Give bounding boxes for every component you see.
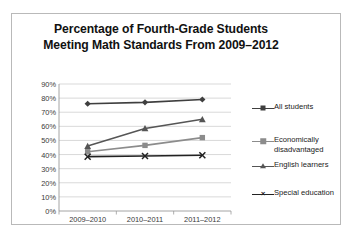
- series-line-2: [88, 119, 203, 146]
- y-axis-tick-label: 90%: [28, 80, 56, 89]
- legend-marker-triangle-icon: [252, 161, 274, 171]
- legend-label-1: Economically disadvantaged: [274, 135, 323, 154]
- data-point-diamond: [142, 99, 148, 105]
- legend-item-2[interactable]: English learners: [252, 160, 328, 171]
- legend-label-3: Special education: [274, 188, 334, 198]
- legend-item-3[interactable]: ×Special education: [252, 188, 334, 199]
- x-axis-tick-label: 2011–2012: [162, 215, 242, 224]
- legend-marker-cross-icon: ×: [252, 189, 274, 199]
- y-axis: 90%80%70%60%50%40%30%20%10%0%: [26, 84, 56, 211]
- x-axis: 2009–20102010–20112011–2012: [59, 215, 231, 229]
- data-point-square: [142, 143, 147, 148]
- chart-title-line-2: Meeting Math Standards From 2009–2012: [26, 38, 296, 54]
- data-point-diamond: [199, 96, 205, 102]
- data-point-square: [85, 149, 90, 154]
- legend-marker-square-icon: [252, 136, 274, 146]
- data-point-diamond: [85, 101, 91, 107]
- y-axis-tick-label: 60%: [28, 122, 56, 131]
- y-axis-tick-label: 30%: [28, 164, 56, 173]
- y-axis-tick-label: 40%: [28, 150, 56, 159]
- chart-title: Percentage of Fourth-Grade Students Meet…: [26, 22, 296, 53]
- y-axis-tick-label: 70%: [28, 108, 56, 117]
- y-axis-tick-label: 50%: [28, 136, 56, 145]
- chart-frame: Percentage of Fourth-Grade Students Meet…: [11, 13, 341, 225]
- y-axis-tick-label: 10%: [28, 192, 56, 201]
- legend-item-0[interactable]: All students: [252, 102, 313, 113]
- legend-item-1[interactable]: Economically disadvantaged: [252, 135, 323, 154]
- legend-marker-diamond-icon: [252, 103, 274, 113]
- chart-title-line-1: Percentage of Fourth-Grade Students: [26, 22, 296, 38]
- plot-svg: [59, 84, 231, 211]
- y-axis-tick-label: 20%: [28, 178, 56, 187]
- plot-area: [59, 84, 231, 211]
- data-point-square: [200, 135, 205, 140]
- y-axis-tick-label: 80%: [28, 94, 56, 103]
- legend-label-2: English learners: [274, 160, 328, 170]
- legend-label-0: All students: [274, 102, 313, 112]
